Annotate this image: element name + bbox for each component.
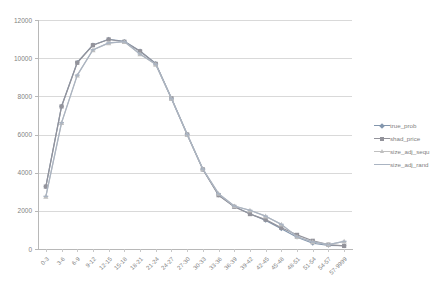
data-point-marker	[279, 224, 284, 225]
y-axis-tick-label: 4000	[0, 169, 32, 176]
x-axis-tick-mark	[297, 249, 298, 252]
series-line	[46, 42, 344, 245]
data-point-marker	[310, 241, 315, 242]
x-axis-tick-label: 42-45	[236, 256, 270, 289]
x-axis-tick-mark	[109, 249, 110, 252]
data-point-marker	[91, 43, 95, 47]
data-point-marker	[216, 193, 221, 194]
data-point-marker	[106, 42, 111, 43]
x-axis-tick-mark	[344, 249, 345, 252]
series-size_adj_sequ	[43, 39, 347, 247]
y-axis-tick-label: 12000	[0, 17, 32, 24]
data-point-marker	[91, 49, 96, 50]
series-true_prob	[43, 37, 346, 248]
x-axis-tick-label: 48-51	[267, 256, 301, 289]
x-axis-tick-label: 30-33	[173, 256, 207, 289]
x-axis-tick-label: 39-42	[220, 256, 254, 289]
y-axis-tick-label: 8000	[0, 93, 32, 100]
x-axis-tick-mark	[266, 249, 267, 252]
legend-item-size_adj_sequ[interactable]: size_adj_sequ	[374, 146, 441, 157]
series-size_adj_rand	[43, 41, 346, 245]
legend-swatch-icon	[374, 121, 390, 130]
x-axis-tick-label: 36-39	[204, 256, 238, 289]
x-axis-tick-mark	[77, 249, 78, 252]
data-point-marker	[43, 196, 48, 197]
x-axis-tick-label: 27-30	[157, 256, 191, 289]
x-axis-tick-mark	[46, 249, 47, 252]
x-axis-tick-label: 24-27	[142, 256, 176, 289]
data-point-marker	[153, 64, 158, 65]
y-axis-tick-label: 10000	[0, 55, 32, 62]
chart-legend: true_probshad_pricesize_adj_sequsize_adj…	[374, 120, 441, 172]
series-line	[46, 39, 344, 245]
x-axis-tick-mark	[203, 249, 204, 252]
x-axis-tick-mark	[156, 249, 157, 252]
series-line	[46, 39, 344, 245]
x-axis-tick-mark	[219, 249, 220, 252]
x-axis-tick-mark	[187, 249, 188, 252]
series-shad_price	[44, 37, 347, 248]
x-axis-tick-mark	[140, 249, 141, 252]
series-layer	[38, 20, 352, 249]
data-point-marker	[248, 212, 252, 216]
legend-item-shad_price[interactable]: shad_price	[374, 133, 441, 144]
data-point-marker	[263, 215, 268, 216]
x-axis-tick-mark	[171, 249, 172, 252]
data-point-marker	[169, 98, 174, 99]
x-axis-tick-mark	[281, 249, 282, 252]
data-point-marker	[75, 74, 80, 75]
x-axis-tick-label: 57-9999	[314, 256, 348, 289]
x-axis-tick-label: 12-15	[79, 256, 113, 289]
data-point-marker	[248, 210, 253, 211]
plot-area	[38, 20, 352, 249]
data-point-marker	[200, 168, 205, 169]
data-point-marker	[342, 241, 347, 242]
legend-label: true_prob	[390, 121, 417, 130]
data-point-marker	[59, 122, 64, 123]
x-axis-tick-label: 51-54	[283, 256, 317, 289]
legend-item-true_prob[interactable]: true_prob	[374, 120, 441, 131]
x-axis-tick-mark	[313, 249, 314, 252]
legend-swatch-icon	[374, 160, 390, 169]
data-point-marker	[232, 205, 237, 206]
x-axis-tick-mark	[124, 249, 125, 252]
series-line	[46, 42, 344, 245]
x-axis-tick-label: 18-21	[110, 256, 144, 289]
legend-swatch-icon	[374, 147, 390, 156]
data-point-marker	[185, 134, 190, 135]
legend-label: shad_price	[390, 134, 420, 143]
legend-label: size_adj_rand	[390, 160, 429, 169]
legend-label: size_adj_sequ	[390, 147, 430, 156]
x-axis-tick-label: 3-6	[32, 256, 66, 289]
x-axis-tick-label: 45-48	[252, 256, 286, 289]
x-axis-tick-mark	[234, 249, 235, 252]
x-axis-tick-mark	[328, 249, 329, 252]
x-axis-tick-label: 6-9	[47, 256, 81, 289]
y-axis-tick-label: 2000	[0, 207, 32, 214]
data-point-marker	[59, 104, 63, 108]
data-point-marker	[295, 236, 300, 237]
x-axis-tick-mark	[250, 249, 251, 252]
data-point-marker	[342, 244, 346, 248]
data-point-marker	[326, 244, 331, 245]
legend-swatch-icon	[374, 134, 390, 143]
x-axis-tick-mark	[62, 249, 63, 252]
data-point-marker	[138, 53, 143, 54]
y-axis-tick-label: 0	[0, 246, 32, 253]
legend-item-size_adj_rand[interactable]: size_adj_rand	[374, 159, 441, 170]
data-point-marker	[122, 41, 127, 42]
x-axis-tick-label: 33-36	[189, 256, 223, 289]
x-axis-tick-label: 21-24	[126, 256, 160, 289]
x-axis-tick-label: 0-3	[16, 256, 50, 289]
x-axis-tick-label: 15-18	[95, 256, 129, 289]
x-axis-tick-mark	[93, 249, 94, 252]
x-axis-tick-label: 9-12	[63, 256, 97, 289]
chart-container: 020004000600080001000012000 0-33-66-99-1…	[0, 0, 441, 289]
x-axis-tick-label: 54-57	[299, 256, 333, 289]
y-axis-tick-label: 6000	[0, 131, 32, 138]
data-point-marker	[75, 61, 79, 65]
x-axis-line	[38, 249, 353, 250]
